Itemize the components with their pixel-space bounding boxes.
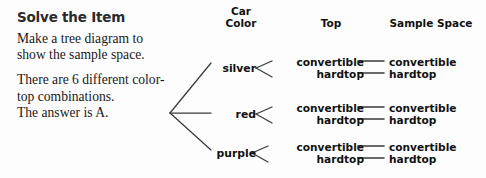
node-sample-silver-convertible: convertible <box>389 56 486 68</box>
node-top-silver-convertible: convertible <box>282 56 364 68</box>
column-header-sample-space: Sample Space <box>380 17 482 29</box>
node-top-red-hardtop: hardtop <box>282 114 364 126</box>
tree-diagram: Car Color Top Sample Space silver red pu… <box>0 0 486 178</box>
node-sample-red-convertible: convertible <box>389 102 486 114</box>
node-top-red-convertible: convertible <box>282 102 364 114</box>
node-top-silver-hardtop: hardtop <box>282 68 364 80</box>
branch-silver-to-convertible <box>256 61 272 68</box>
branch-red-to-hardtop <box>256 114 272 123</box>
branch-silver-to-hardtop <box>256 68 272 77</box>
branch-red-to-convertible <box>256 107 272 114</box>
node-top-purple-convertible: convertible <box>282 141 364 153</box>
node-top-purple-hardtop: hardtop <box>282 153 364 165</box>
node-sample-silver-hardtop: hardtop <box>389 68 486 80</box>
node-color-purple: purple <box>180 147 256 160</box>
node-color-red: red <box>180 108 256 121</box>
node-sample-purple-convertible: convertible <box>389 141 486 153</box>
column-header-top: Top <box>296 17 366 29</box>
node-sample-red-hardtop: hardtop <box>389 114 486 126</box>
node-sample-purple-hardtop: hardtop <box>389 153 486 165</box>
column-header-car-color: Car Color <box>205 5 277 29</box>
node-color-silver: silver <box>180 62 256 75</box>
worked-example-page: Solve the Item Make a tree diagram to sh… <box>0 0 486 178</box>
